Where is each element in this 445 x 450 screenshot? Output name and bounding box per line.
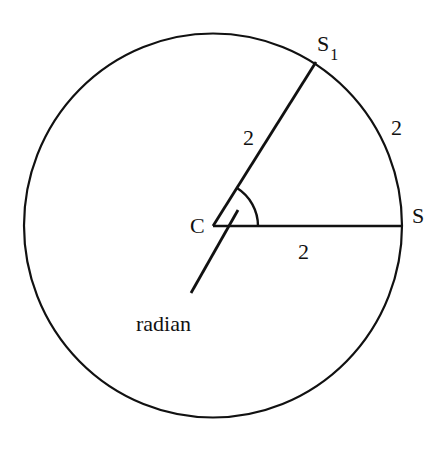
- angle-arc: [237, 188, 258, 226]
- arc-length-label: 2: [391, 115, 402, 140]
- point-s1-label: S1: [317, 31, 338, 63]
- center-label: C: [190, 213, 205, 238]
- point-s1-subscript: 1: [330, 46, 338, 63]
- radian-diagram: C S S1 2 2 2 radian: [0, 0, 445, 450]
- radius-length-label: 2: [243, 125, 254, 150]
- base-radius-length-label: 2: [298, 239, 309, 264]
- radius-to-s1: [213, 62, 316, 226]
- radian-label: radian: [136, 311, 191, 336]
- point-s-label: S: [412, 203, 424, 228]
